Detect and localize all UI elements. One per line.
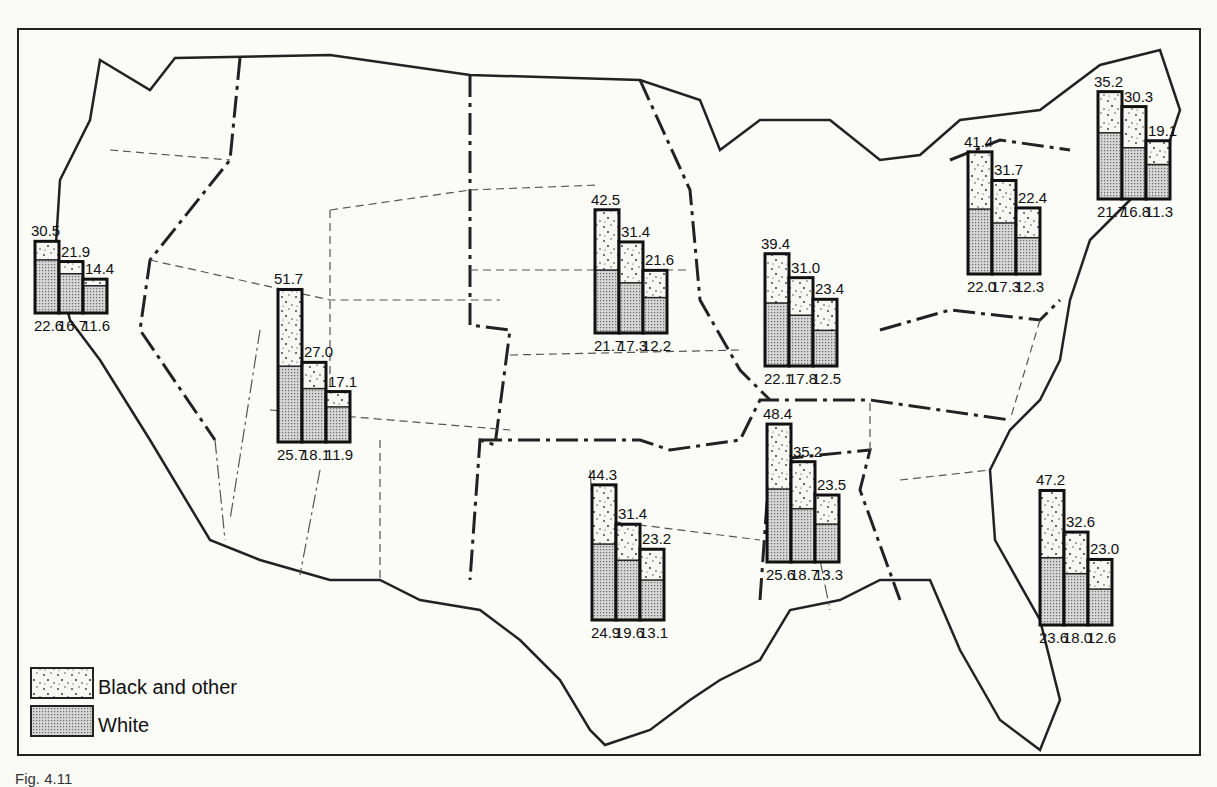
bar-segment-white bbox=[767, 489, 791, 562]
bar-group-mountain: 51.725.727.018.117.111.9 bbox=[274, 270, 357, 463]
value-label-white: 11.3 bbox=[1145, 203, 1173, 220]
value-label-total: 23.0 bbox=[1090, 540, 1119, 557]
value-label-total: 42.5 bbox=[591, 191, 620, 208]
value-label-total: 35.2 bbox=[1094, 73, 1123, 90]
bar-segment-black-other bbox=[592, 485, 616, 544]
coastline bbox=[55, 50, 1180, 750]
value-label-white: 12.5 bbox=[812, 370, 841, 387]
bar-segment-white bbox=[1098, 133, 1122, 199]
value-label-total: 31.0 bbox=[791, 259, 820, 276]
bar-segment-black-other bbox=[59, 262, 83, 274]
bar-segment-black-other bbox=[1088, 559, 1112, 589]
bar-segment-black-other bbox=[35, 241, 59, 260]
value-label-total: 32.6 bbox=[1066, 513, 1095, 530]
bar-segment-black-other bbox=[643, 270, 667, 297]
value-label-total: 35.2 bbox=[793, 443, 822, 460]
bar-segment-black-other bbox=[767, 424, 791, 489]
value-label-white: 13.3 bbox=[814, 566, 843, 583]
bar-segment-black-other bbox=[1016, 208, 1040, 238]
bar-segment-white bbox=[326, 407, 350, 442]
bar-segment-white bbox=[278, 366, 302, 442]
value-label-total: 30.5 bbox=[31, 222, 60, 239]
bar-segment-black-other bbox=[1146, 141, 1170, 165]
value-label-total: 51.7 bbox=[274, 270, 303, 287]
bar-group-west-south-central: 44.324.931.419.623.213.1 bbox=[588, 466, 671, 641]
bar-segment-white bbox=[1122, 148, 1146, 199]
legend-label: Black and other bbox=[98, 676, 237, 699]
bar-group-east-south-central: 48.425.635.218.723.513.3 bbox=[763, 405, 846, 583]
bar-segment-black-other bbox=[302, 362, 326, 388]
bar-group-west-north-central: 42.521.731.417.321.612.2 bbox=[591, 191, 674, 354]
bar-segment-white bbox=[592, 544, 616, 620]
bar-segment-black-other bbox=[619, 242, 643, 283]
bar-group-east-north-central: 39.422.131.017.823.412.5 bbox=[761, 235, 844, 387]
value-label-total: 17.1 bbox=[328, 373, 357, 390]
bar-segment-white bbox=[789, 315, 813, 366]
value-label-total: 41.4 bbox=[964, 133, 993, 150]
bar-segment-white bbox=[1064, 574, 1088, 625]
bar-segment-black-other bbox=[1098, 92, 1122, 133]
bar-segment-white bbox=[619, 283, 643, 333]
bar-segment-white bbox=[59, 274, 83, 313]
legend-label: White bbox=[98, 714, 149, 737]
value-label-total: 31.7 bbox=[994, 161, 1023, 178]
value-label-total: 27.0 bbox=[304, 343, 333, 360]
value-label-total: 47.2 bbox=[1036, 471, 1065, 488]
value-label-total: 39.4 bbox=[761, 235, 790, 252]
bar-segment-black-other bbox=[815, 495, 839, 524]
bar-group-middle-atlantic: 41.422.031.717.322.412.3 bbox=[964, 133, 1047, 295]
bar-segment-black-other bbox=[813, 299, 837, 330]
bar-group-south-atlantic: 47.223.632.618.023.012.6 bbox=[1036, 471, 1119, 646]
value-label-white: 13.1 bbox=[639, 624, 668, 641]
bar-segment-white bbox=[35, 260, 59, 313]
value-label-total: 21.9 bbox=[61, 243, 90, 260]
bar-segment-black-other bbox=[1122, 107, 1146, 148]
legend-item-black-other: Black and other bbox=[30, 668, 237, 706]
value-label-total: 48.4 bbox=[763, 405, 792, 422]
value-label-total: 44.3 bbox=[588, 466, 617, 483]
value-label-white: 12.6 bbox=[1087, 629, 1116, 646]
bar-segment-black-other bbox=[992, 180, 1016, 222]
legend-item-white: White bbox=[30, 706, 237, 744]
value-label-total: 22.4 bbox=[1018, 189, 1047, 206]
bar-segment-black-other bbox=[765, 254, 789, 303]
bar-group-pacific: 30.522.621.916.714.411.6 bbox=[31, 222, 114, 334]
value-label-white: 11.6 bbox=[82, 317, 110, 334]
bar-group-new-england: 35.221.730.316.819.111.3 bbox=[1094, 73, 1177, 220]
bar-segment-black-other bbox=[326, 392, 350, 407]
bar-segment-white bbox=[640, 580, 664, 620]
bar-segment-black-other bbox=[968, 152, 992, 209]
bar-segment-black-other bbox=[789, 278, 813, 316]
bar-segment-white bbox=[83, 286, 107, 313]
bar-segment-black-other bbox=[1064, 532, 1088, 574]
bar-segment-white bbox=[791, 509, 815, 562]
value-label-white: 12.3 bbox=[1015, 278, 1044, 295]
legend: Black and other White bbox=[30, 668, 237, 744]
bar-segment-white bbox=[813, 330, 837, 366]
value-label-total: 30.3 bbox=[1124, 88, 1153, 105]
bar-segment-white bbox=[595, 270, 619, 333]
figure-caption: Fig. 4.11 bbox=[15, 770, 72, 787]
bar-segment-black-other bbox=[1040, 490, 1064, 557]
value-label-total: 31.4 bbox=[618, 505, 647, 522]
value-label-total: 23.5 bbox=[817, 476, 846, 493]
bar-segment-white bbox=[1088, 589, 1112, 625]
bar-segment-white bbox=[968, 209, 992, 274]
bar-segment-black-other bbox=[278, 289, 302, 366]
bar-segment-black-other bbox=[791, 462, 815, 509]
value-label-total: 21.6 bbox=[645, 251, 674, 268]
bar-segment-black-other bbox=[640, 549, 664, 580]
value-label-total: 14.4 bbox=[85, 260, 114, 277]
bar-segment-white bbox=[1016, 238, 1040, 274]
value-label-total: 19.1 bbox=[1148, 122, 1177, 139]
bar-segment-white bbox=[643, 298, 667, 333]
bar-segment-black-other bbox=[616, 524, 640, 560]
bar-segment-white bbox=[1040, 558, 1064, 625]
bar-segment-white bbox=[1146, 165, 1170, 199]
bar-segment-white bbox=[815, 524, 839, 562]
value-label-total: 31.4 bbox=[621, 223, 650, 240]
value-label-white: 11.9 bbox=[325, 446, 353, 463]
bar-segment-white bbox=[765, 303, 789, 366]
bar-segment-white bbox=[302, 389, 326, 442]
value-label-total: 23.4 bbox=[815, 280, 844, 297]
